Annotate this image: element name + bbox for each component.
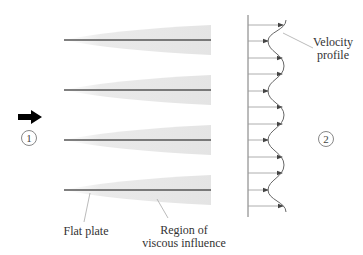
station-2-number: 2 (323, 133, 329, 145)
velocity-profile-label-line2: profile (309, 49, 357, 62)
station-1-marker: 1 (21, 130, 37, 146)
station-1-number: 1 (26, 132, 32, 144)
flat-plate-label-text: Flat plate (58, 225, 114, 238)
flat-plates (64, 40, 211, 190)
velocity-profile-curve (268, 20, 286, 212)
flat-plate-leader (84, 193, 90, 222)
viscous-regions (64, 25, 211, 205)
velocity-profile-label: Velocity profile (309, 36, 357, 62)
station-2-marker: 2 (318, 131, 334, 147)
viscous-region-label-line2: viscous influence (134, 237, 234, 250)
flow-direction-arrow-icon (18, 110, 42, 124)
viscous-region-label: Region of viscous influence (134, 224, 234, 250)
flat-plate-label: Flat plate (58, 225, 114, 238)
velocity-arrows (248, 25, 283, 206)
